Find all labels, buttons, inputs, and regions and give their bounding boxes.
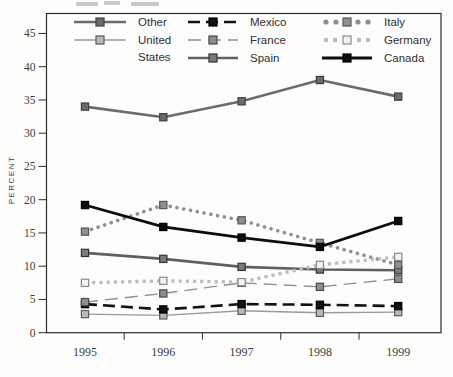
- data-point-other: [316, 76, 323, 83]
- y-tick-label: 35: [24, 94, 36, 106]
- cropped-text-artifact: [131, 2, 159, 6]
- legend-marker-france: [209, 36, 217, 44]
- y-axis-title: PERCENT: [0, 173, 51, 187]
- y-tick-label: 20: [24, 194, 36, 206]
- data-point-canada: [316, 243, 323, 250]
- legend-swatch-germany: [324, 38, 328, 42]
- data-point-other: [160, 114, 167, 121]
- data-point-germany: [395, 253, 402, 260]
- data-point-united-states: [81, 310, 88, 317]
- data-point-italy: [238, 217, 245, 224]
- data-point-canada: [81, 201, 88, 208]
- data-point-other: [81, 103, 88, 110]
- legend-marker-germany: [343, 36, 351, 44]
- legend-marker-other: [96, 18, 104, 26]
- data-point-canada: [395, 217, 402, 224]
- y-tick-label: 40: [24, 61, 36, 73]
- legend-label-canada: Canada: [384, 52, 425, 64]
- data-point-mexico: [238, 301, 245, 308]
- legend-label-spain: Spain: [250, 52, 279, 64]
- data-point-mexico: [160, 306, 167, 313]
- x-tick-label: 1998: [308, 345, 332, 359]
- data-point-italy: [160, 201, 167, 208]
- legend-label-france: France: [250, 34, 286, 46]
- data-point-france: [316, 283, 323, 290]
- data-point-canada: [238, 234, 245, 241]
- data-point-germany: [81, 279, 88, 286]
- y-tick-label: 25: [24, 160, 36, 172]
- legend-label-italy: Italy: [384, 16, 405, 28]
- legend-label-united-states: States: [138, 51, 171, 63]
- x-tick-label: 1995: [73, 345, 97, 359]
- data-point-italy: [81, 228, 88, 235]
- y-tick-label: 30: [24, 127, 36, 139]
- data-point-canada: [160, 223, 167, 230]
- y-tick-label: 45: [24, 27, 36, 39]
- legend-marker-united-states: [96, 36, 104, 44]
- data-point-france: [395, 275, 402, 282]
- legend-swatch-germany: [357, 38, 361, 42]
- legend-swatch-germany: [333, 38, 337, 42]
- legend-swatch-italy: [355, 19, 360, 24]
- cropped-text-artifact: [76, 2, 98, 6]
- data-point-spain: [81, 249, 88, 256]
- data-point-germany: [160, 277, 167, 284]
- data-point-other: [395, 93, 402, 100]
- legend-marker-spain: [209, 54, 217, 62]
- x-tick-label: 1999: [386, 345, 410, 359]
- legend-marker-canada: [343, 54, 351, 62]
- legend-marker-mexico: [209, 18, 217, 26]
- chart-canvas: 05101520253035404519951996199719981999Ot…: [0, 0, 453, 377]
- data-point-germany: [316, 261, 323, 268]
- legend-marker-italy: [343, 18, 351, 26]
- legend-label-mexico: Mexico: [250, 16, 286, 28]
- legend-swatch-germany: [366, 38, 370, 42]
- data-point-italy: [395, 261, 402, 268]
- data-point-germany: [238, 279, 245, 286]
- legend-swatch-italy: [323, 19, 328, 24]
- y-tick-label: 15: [24, 227, 36, 239]
- legend-label-united-states: United: [138, 34, 171, 46]
- legend-swatch-italy: [365, 19, 370, 24]
- y-tick-label: 0: [30, 327, 36, 339]
- cropped-text-artifact: [104, 1, 120, 5]
- y-tick-label: 10: [24, 260, 36, 272]
- x-tick-label: 1996: [151, 345, 175, 359]
- data-point-mexico: [316, 301, 323, 308]
- data-point-france: [160, 290, 167, 297]
- legend-label-germany: Germany: [384, 34, 432, 46]
- data-point-mexico: [395, 303, 402, 310]
- data-point-spain: [238, 263, 245, 270]
- x-tick-label: 1997: [230, 345, 254, 359]
- line-chart: PERCENT 05101520253035404519951996199719…: [0, 0, 453, 377]
- data-point-spain: [160, 255, 167, 262]
- data-point-france: [81, 299, 88, 306]
- data-point-other: [238, 98, 245, 105]
- legend-swatch-italy: [333, 19, 338, 24]
- y-tick-label: 5: [30, 293, 36, 305]
- legend-label-other: Other: [138, 16, 167, 28]
- data-point-united-states: [316, 309, 323, 316]
